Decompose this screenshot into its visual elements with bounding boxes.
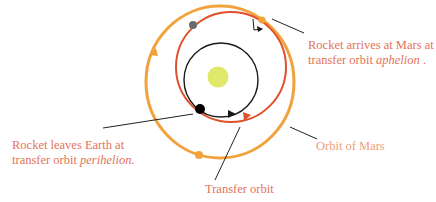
orbit-diagram [0, 0, 436, 202]
arrival-leader-line [272, 19, 304, 33]
sun [208, 67, 229, 88]
departure-label-line2: transfer orbit perihelion. [12, 153, 135, 168]
transfer-orbit-label: Transfer orbit [205, 182, 274, 197]
arrival-label-prefix: transfer orbit [308, 53, 376, 67]
departure-label-prefix: transfer orbit [12, 153, 80, 167]
aphelion-term: aphelion [376, 53, 420, 67]
arrival-label-line2: transfer orbit aphelion . [308, 53, 434, 68]
arrival-label-line1: Rocket arrives at Mars at [308, 38, 434, 53]
earth-dot [195, 104, 205, 114]
mars-orbit-label: Orbit of Mars [316, 139, 385, 154]
mars-later-dot [195, 151, 203, 159]
mars-orbit-leader-line [290, 127, 317, 139]
arrival-label: Rocket arrives at Mars at transfer orbit… [308, 38, 434, 68]
arrival-label-suffix: . [420, 53, 426, 67]
mars-start-dot [189, 21, 197, 29]
departure-leader-line [103, 114, 193, 128]
departure-label: Rocket leaves Earth at transfer orbit pe… [12, 138, 135, 168]
mars-arrival-dot [259, 17, 266, 24]
earth-orbit-arrow-icon [228, 110, 236, 118]
transfer-orbit-leader-line [215, 127, 240, 180]
aphelion-hook-arrowhead-icon [257, 26, 263, 32]
perihelion-term: perihelion. [80, 153, 135, 167]
departure-label-line1: Rocket leaves Earth at [12, 138, 135, 153]
